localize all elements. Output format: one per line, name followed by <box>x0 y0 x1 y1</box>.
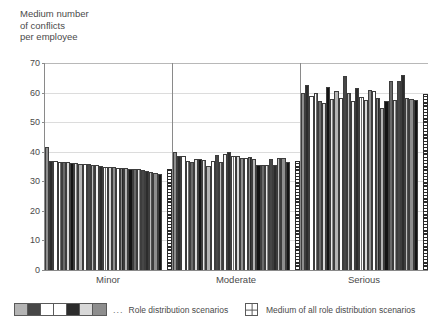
plot-area: 010203040506070 <box>44 63 428 271</box>
plot-inner <box>45 63 428 270</box>
bar-groups <box>45 63 428 270</box>
bar-group-minor <box>45 63 172 270</box>
x-axis-label-serious: Serious <box>300 274 428 290</box>
legend-swatch-cell <box>67 304 80 315</box>
x-axis-label-moderate: Moderate <box>172 274 300 290</box>
legend-swatch-cell <box>28 304 41 315</box>
legend-label-medium: Medium of all role distribution scenario… <box>266 305 415 315</box>
legend-entry-scenarios: ... Role distribution scenarios <box>14 303 228 316</box>
legend-swatch-cell <box>54 304 67 315</box>
legend-swatch-cell <box>93 304 106 315</box>
legend-label-scenarios: Role distribution scenarios <box>129 305 229 315</box>
y-tick-mark <box>42 122 45 123</box>
legend-swatch-cell <box>41 304 54 315</box>
legend-swatch-cell <box>80 304 93 315</box>
y-tick-mark <box>42 270 45 271</box>
bar <box>286 162 290 270</box>
bar <box>158 174 162 270</box>
bar-group-moderate <box>172 63 300 270</box>
legend-ellipsis: ... <box>113 305 124 315</box>
bar <box>414 100 418 270</box>
bar-group-serious <box>300 63 428 270</box>
legend-entry-medium: Medium of all role distribution scenario… <box>245 303 415 316</box>
chart-root: Medium number of conflicts per employee … <box>0 0 440 332</box>
y-tick-mark <box>42 240 45 241</box>
y-tick-mark <box>42 181 45 182</box>
legend-swatch-medium-icon <box>245 303 258 316</box>
legend-swatch-scenarios <box>14 303 107 316</box>
x-axis-label-minor: Minor <box>44 274 172 290</box>
y-tick-mark <box>42 152 45 153</box>
y-tick-mark <box>42 211 45 212</box>
y-axis-title: Medium number of conflicts per employee <box>20 8 89 43</box>
x-axis-labels: MinorModerateSerious <box>44 274 428 290</box>
y-tick-mark <box>42 63 45 64</box>
chart-legend: ... Role distribution scenarios Medium o… <box>0 300 440 330</box>
legend-swatch-cell <box>15 304 28 315</box>
y-tick-mark <box>42 93 45 94</box>
medium-bar <box>423 94 428 270</box>
